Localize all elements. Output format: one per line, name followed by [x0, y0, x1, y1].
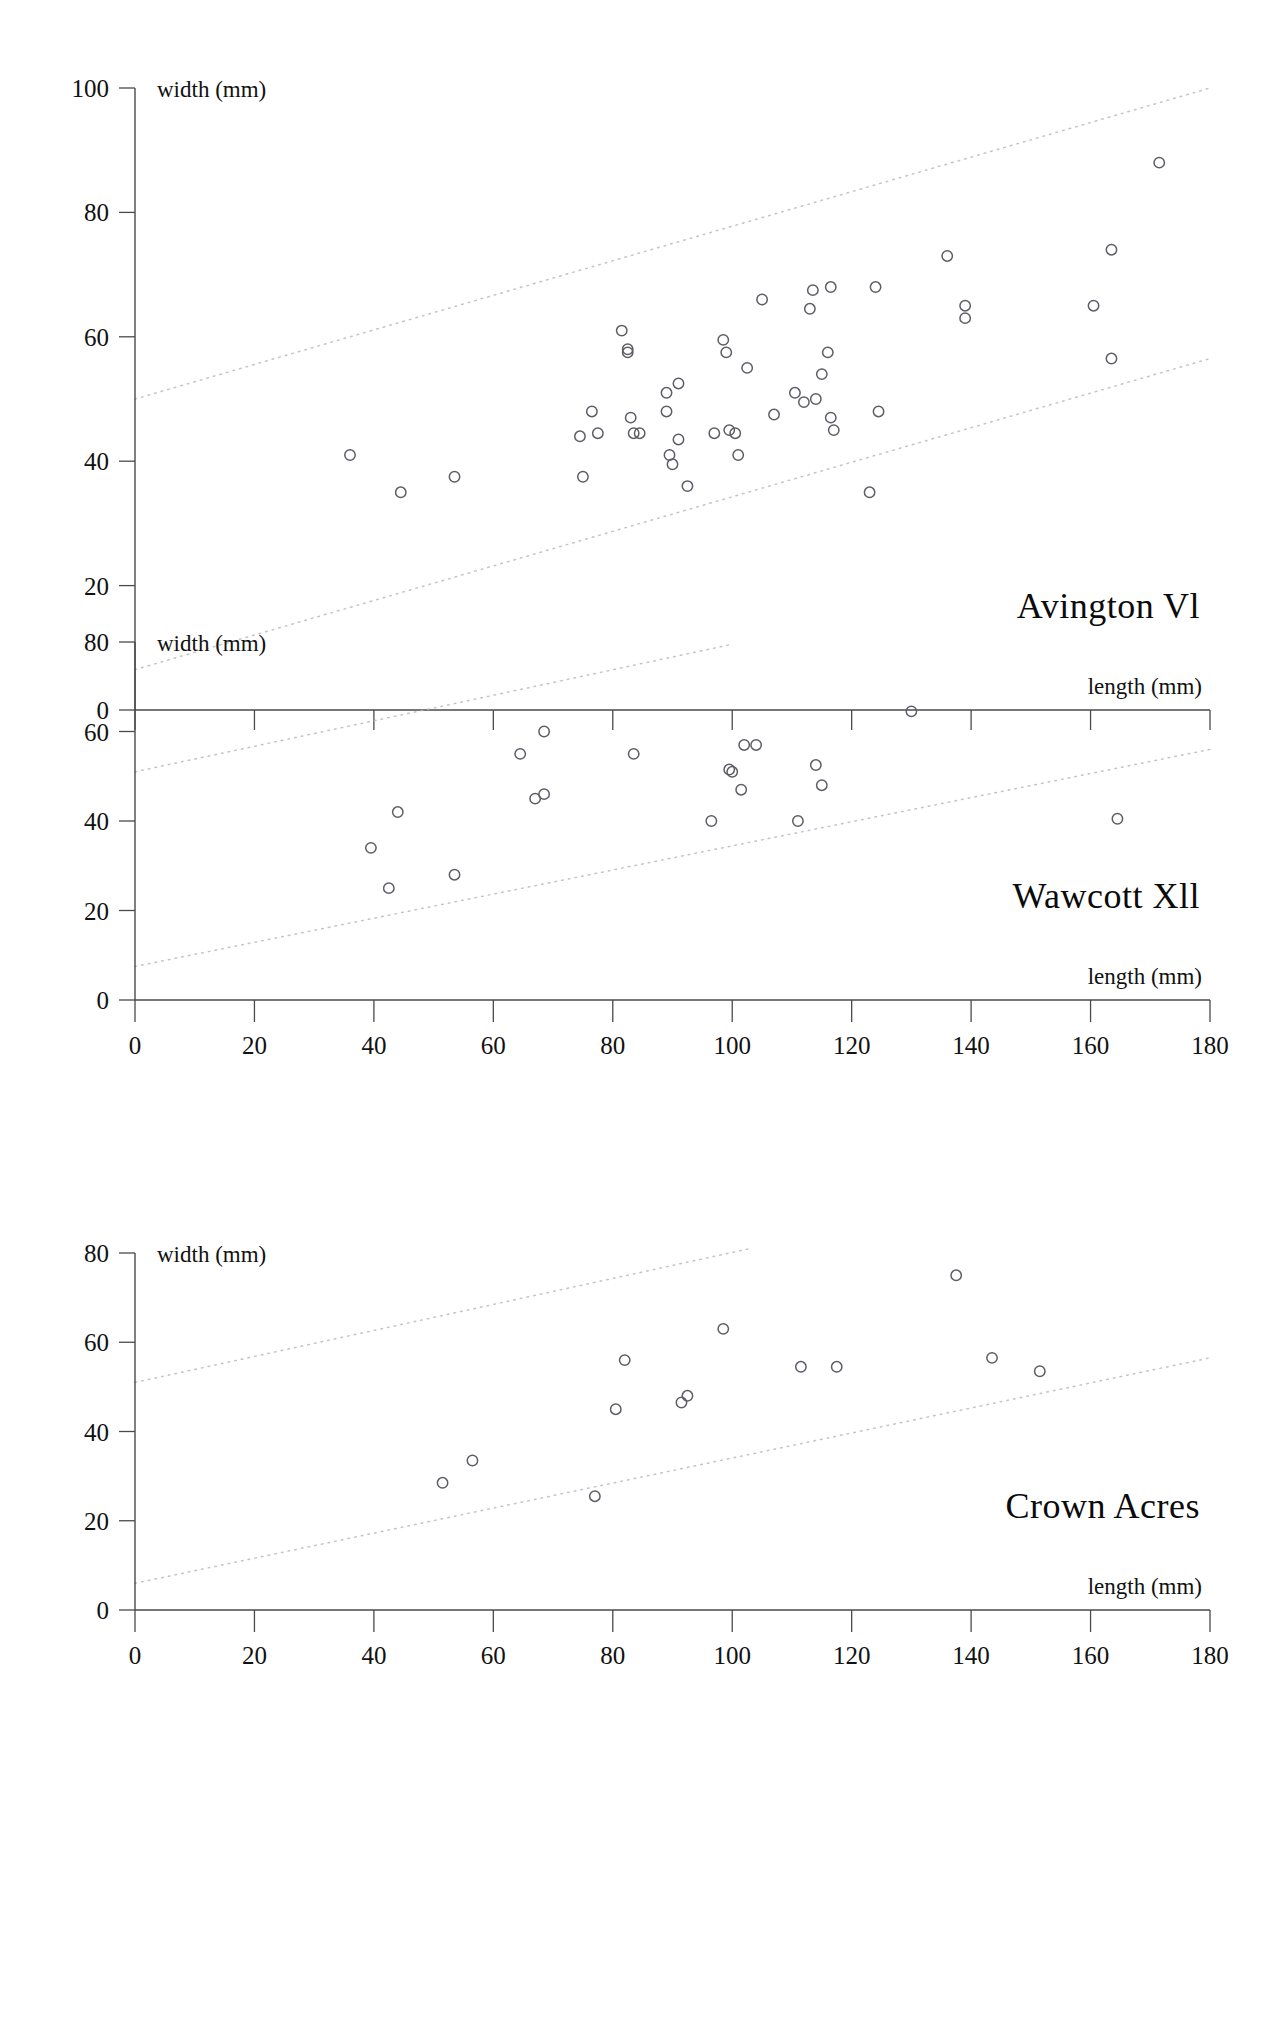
x-tick-label: 80	[600, 1642, 625, 1669]
data-point	[384, 883, 394, 893]
data-point	[799, 397, 809, 407]
x-tick-label: 120	[833, 1032, 871, 1059]
data-point	[625, 412, 635, 422]
data-point	[733, 450, 743, 460]
y-axis-title: width (mm)	[157, 631, 266, 656]
data-point	[1035, 1366, 1045, 1376]
data-point	[811, 760, 821, 770]
data-point	[539, 789, 549, 799]
x-tick-label: 100	[713, 1642, 751, 1669]
data-point	[826, 412, 836, 422]
data-point	[730, 428, 740, 438]
data-point	[1106, 353, 1116, 363]
y-axis-title: width (mm)	[157, 1242, 266, 1267]
data-point	[873, 406, 883, 416]
x-tick-label: 80	[600, 1032, 625, 1059]
data-point	[1088, 301, 1098, 311]
data-point	[736, 784, 746, 794]
x-axis-title: length (mm)	[1088, 1574, 1202, 1599]
data-point	[1154, 157, 1164, 167]
data-point	[718, 1324, 728, 1334]
data-point	[987, 1353, 997, 1363]
data-point	[769, 409, 779, 419]
y-tick-label: 20	[84, 1508, 109, 1535]
y-tick-label: 60	[84, 1329, 109, 1356]
data-point	[673, 434, 683, 444]
x-tick-label: 0	[129, 1032, 142, 1059]
chart-panel-wawcott: 020406080020406080100120140160180width (…	[0, 600, 1276, 1200]
x-tick-label: 60	[481, 1032, 506, 1059]
data-point	[751, 740, 761, 750]
figure-page: 020406080100020406080100120140160180widt…	[0, 0, 1276, 2018]
chart-panel-crown: 020406080020406080100120140160180width (…	[0, 1190, 1276, 1810]
y-axis-title: width (mm)	[157, 77, 266, 102]
scatter-plot-crown: 020406080020406080100120140160180width (…	[0, 1190, 1276, 1810]
x-axis-title: length (mm)	[1088, 964, 1202, 989]
y-tick-label: 100	[72, 75, 110, 102]
data-point	[960, 313, 970, 323]
reference-line-lower-ratio-line	[135, 1358, 1210, 1583]
y-tick-label: 0	[97, 1597, 110, 1624]
data-point	[808, 285, 818, 295]
data-point	[721, 347, 731, 357]
data-point	[727, 767, 737, 777]
y-tick-label: 0	[97, 987, 110, 1014]
data-point	[366, 843, 376, 853]
data-point	[620, 1355, 630, 1365]
data-point	[706, 816, 716, 826]
y-tick-label: 80	[84, 199, 109, 226]
data-point	[790, 388, 800, 398]
data-point	[673, 378, 683, 388]
data-point	[817, 780, 827, 790]
data-point	[832, 1362, 842, 1372]
x-tick-label: 60	[481, 1642, 506, 1669]
data-point	[578, 472, 588, 482]
data-point	[709, 428, 719, 438]
panel-title-wawcott: Wawcott Xll	[1012, 876, 1200, 916]
data-point	[437, 1478, 447, 1488]
data-point	[676, 1397, 686, 1407]
y-tick-label: 40	[84, 808, 109, 835]
reference-line-upper-ratio-line	[135, 644, 732, 772]
data-point	[682, 481, 692, 491]
data-point	[1106, 245, 1116, 255]
data-point	[611, 1404, 621, 1414]
data-point	[617, 325, 627, 335]
data-point	[793, 816, 803, 826]
y-tick-label: 80	[84, 629, 109, 656]
data-point	[449, 870, 459, 880]
data-point	[587, 406, 597, 416]
data-point	[951, 1270, 961, 1280]
data-point	[628, 428, 638, 438]
x-tick-label: 160	[1072, 1032, 1110, 1059]
data-point	[757, 294, 767, 304]
panel-title-crown: Crown Acres	[1006, 1486, 1200, 1526]
data-point	[667, 459, 677, 469]
scatter-plot-wawcott: 020406080020406080100120140160180width (…	[0, 600, 1276, 1200]
data-point	[467, 1455, 477, 1465]
data-point	[942, 251, 952, 261]
data-point	[539, 726, 549, 736]
data-point	[661, 388, 671, 398]
data-point	[796, 1362, 806, 1372]
y-tick-label: 80	[84, 1240, 109, 1267]
y-tick-label: 40	[84, 1419, 109, 1446]
data-point	[393, 807, 403, 817]
data-point	[396, 487, 406, 497]
data-point	[682, 1391, 692, 1401]
y-tick-label: 20	[84, 898, 109, 925]
x-tick-label: 0	[129, 1642, 142, 1669]
reference-line-upper-ratio-line	[135, 1249, 750, 1383]
data-point	[864, 487, 874, 497]
reference-line-lower-ratio-line	[135, 749, 1210, 966]
x-tick-label: 160	[1072, 1642, 1110, 1669]
data-point	[718, 335, 728, 345]
x-tick-label: 180	[1191, 1642, 1229, 1669]
x-tick-label: 120	[833, 1642, 871, 1669]
data-point	[960, 301, 970, 311]
data-point	[906, 706, 916, 716]
data-point	[661, 406, 671, 416]
x-tick-label: 40	[361, 1642, 386, 1669]
data-point	[515, 749, 525, 759]
data-point	[593, 428, 603, 438]
